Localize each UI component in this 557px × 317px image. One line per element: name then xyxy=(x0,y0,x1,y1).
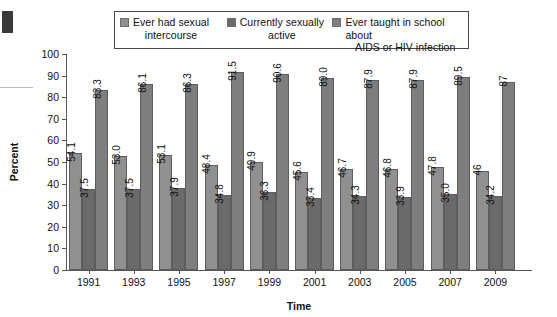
bar-value-label: 90.6 xyxy=(272,64,283,83)
bar[interactable]: 83.3 xyxy=(95,90,108,270)
y-axis-line xyxy=(66,54,67,270)
bar[interactable]: 34.3 xyxy=(353,196,366,270)
bar-value-label: 35.0 xyxy=(440,184,451,203)
bar[interactable]: 33.9 xyxy=(398,197,411,270)
y-axis-tick-label: 100 xyxy=(41,49,59,59)
bar[interactable]: 37.9 xyxy=(172,188,185,270)
bar[interactable]: 47.8 xyxy=(431,167,444,270)
bar-value-label: 34.2 xyxy=(485,185,496,204)
y-axis-tick xyxy=(62,162,66,163)
bar[interactable]: 53.1 xyxy=(159,155,172,270)
bar-group-1995: 53.137.986.31995 xyxy=(159,54,198,270)
bar[interactable]: 49.9 xyxy=(250,162,263,270)
y-axis-tick xyxy=(62,270,66,271)
bar[interactable]: 53.0 xyxy=(114,156,127,270)
bar-group-bars: 46.734.387.9 xyxy=(340,54,379,270)
bar-group-1993: 53.037.586.11993 xyxy=(114,54,153,270)
bar[interactable]: 87.9 xyxy=(411,80,424,270)
x-axis-tick-label: 2009 xyxy=(476,276,515,288)
bar-group-bars: 48.434.891.5 xyxy=(205,54,244,270)
bar-group-bars: 54.137.583.3 xyxy=(69,54,108,270)
x-axis-tick-label: 1997 xyxy=(205,276,244,288)
legend-label: Ever taught in school aboutAIDS or HIV i… xyxy=(345,16,465,54)
bar-group-bars: 53.137.986.3 xyxy=(159,54,198,270)
y-axis-tick xyxy=(62,97,66,98)
x-axis-tick xyxy=(360,270,361,274)
x-axis-tick-label: 2001 xyxy=(295,276,334,288)
y-axis-tick xyxy=(62,184,66,185)
x-axis-tick-label: 2005 xyxy=(385,276,424,288)
bar-group-2001: 45.633.489.02001 xyxy=(295,54,334,270)
bar-value-label: 45.6 xyxy=(292,161,303,180)
bar[interactable]: 34.2 xyxy=(489,196,502,270)
legend-swatch-icon xyxy=(332,18,341,27)
bar[interactable]: 46.7 xyxy=(340,169,353,270)
bar[interactable]: 89.5 xyxy=(457,77,470,270)
legend-label: Ever had sexualintercourse xyxy=(133,16,209,41)
bar[interactable]: 36.3 xyxy=(263,192,276,270)
bar[interactable]: 86.3 xyxy=(185,84,198,270)
bar[interactable]: 37.5 xyxy=(82,189,95,270)
bar-value-label: 46.8 xyxy=(382,158,393,177)
bar-group-bars: 53.037.586.1 xyxy=(114,54,153,270)
bar[interactable]: 86.1 xyxy=(140,84,153,270)
bar-group-2009: 4634.2872009 xyxy=(476,54,515,270)
x-axis-tick-label: 1993 xyxy=(114,276,153,288)
legend-label-line2: active xyxy=(240,29,324,42)
bar[interactable]: 89.0 xyxy=(321,78,334,270)
bar[interactable]: 91.5 xyxy=(231,72,244,270)
x-axis-tick xyxy=(450,270,451,274)
bar-value-label: 47.8 xyxy=(427,156,438,175)
bar[interactable]: 90.6 xyxy=(276,74,289,270)
x-axis-tick xyxy=(134,270,135,274)
bar[interactable]: 35.0 xyxy=(444,194,457,270)
bar-value-label: 46.7 xyxy=(337,158,348,177)
bar-group-1999: 49.936.390.61999 xyxy=(250,54,289,270)
bar[interactable]: 34.8 xyxy=(218,195,231,270)
bar[interactable]: 48.4 xyxy=(205,165,218,270)
bar-group-1991: 54.137.583.31991 xyxy=(69,54,108,270)
y-axis-tick-label: 0 xyxy=(53,265,59,275)
y-axis-tick xyxy=(62,119,66,120)
bar-group-2007: 47.835.089.52007 xyxy=(431,54,470,270)
bar-value-label: 48.4 xyxy=(201,155,212,174)
chart-legend: Ever had sexualintercourseCurrently sexu… xyxy=(114,11,469,49)
bar-value-label: 33.9 xyxy=(395,186,406,205)
x-axis-tick xyxy=(405,270,406,274)
bar-group-bars: 47.835.089.5 xyxy=(431,54,470,270)
bar-value-label: 49.9 xyxy=(246,151,257,170)
bar[interactable]: 37.5 xyxy=(127,189,140,270)
x-axis-title: Time xyxy=(287,300,311,312)
bar-value-label: 53.0 xyxy=(111,145,122,164)
y-axis-tick xyxy=(62,227,66,228)
legend-swatch-icon xyxy=(120,18,129,27)
x-axis-tick-label: 1995 xyxy=(159,276,198,288)
x-axis-line xyxy=(66,270,532,271)
bar-value-label: 87 xyxy=(498,76,509,87)
x-axis-tick xyxy=(495,270,496,274)
y-axis-tick-label: 40 xyxy=(47,179,59,189)
bar-value-label: 33.4 xyxy=(305,187,316,206)
bar-value-label: 83.3 xyxy=(92,79,103,98)
bar[interactable]: 54.1 xyxy=(69,153,82,270)
bar[interactable]: 33.4 xyxy=(308,198,321,270)
bar-group-2003: 46.734.387.92003 xyxy=(340,54,379,270)
bar-value-label: 54.1 xyxy=(66,142,77,161)
y-axis-tick xyxy=(62,205,66,206)
bar-value-label: 37.5 xyxy=(79,178,90,197)
y-axis-tick xyxy=(62,54,66,55)
y-axis-title: Percent xyxy=(8,143,20,182)
bar[interactable]: 87.9 xyxy=(366,80,379,270)
bar[interactable]: 46.8 xyxy=(385,169,398,270)
bar-value-label: 89.0 xyxy=(318,67,329,86)
y-axis-tick-label: 20 xyxy=(47,222,59,232)
legend-label-line2: intercourse xyxy=(133,29,209,42)
y-axis-tick-label: 80 xyxy=(47,92,59,102)
bar-value-label: 87.9 xyxy=(363,69,374,88)
legend-label: Currently sexuallyactive xyxy=(240,16,324,41)
bar[interactable]: 87 xyxy=(502,82,515,270)
bar-value-label: 37.9 xyxy=(169,177,180,196)
y-axis-tick xyxy=(62,76,66,77)
bar-value-label: 46 xyxy=(472,164,483,175)
bar-value-label: 91.5 xyxy=(227,62,238,81)
